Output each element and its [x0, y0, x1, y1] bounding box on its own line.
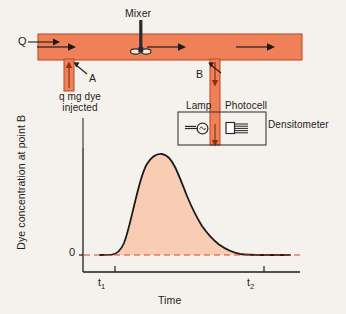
inlet-flow-label: Q	[18, 36, 27, 48]
x-tick-label-t2: t2	[247, 277, 254, 291]
dye-concentration-curve	[84, 154, 300, 255]
dye-dilution-figure	[0, 0, 346, 314]
lamp-label: Lamp	[186, 101, 211, 112]
x-axis-label: Time	[158, 295, 181, 306]
y-tick-label-zero: 0	[69, 247, 75, 259]
mixer-label: Mixer	[125, 8, 151, 19]
point-a-label: A	[89, 73, 96, 84]
photocell-icon	[226, 123, 248, 134]
x-tick-label-t1: t1	[98, 277, 105, 291]
curve-area-fill	[100, 154, 290, 255]
densitometer-label: Densitometer	[268, 120, 329, 131]
y-axis-label: Dye concentration at point B	[16, 118, 27, 250]
point-b-label: B	[196, 69, 203, 80]
lamp-icon	[185, 123, 208, 134]
photocell-label: Photocell	[225, 101, 267, 112]
injection-label: q mg dye injected	[42, 92, 118, 114]
densitometer-assembly	[178, 112, 266, 145]
